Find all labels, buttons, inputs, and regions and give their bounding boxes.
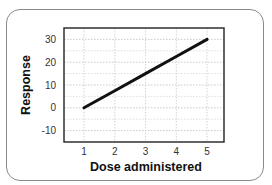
x-tick-label: 4 [174,146,180,157]
y-axis-title: Response [19,55,33,115]
x-tick-label: 2 [112,146,118,157]
y-tick-label: 20 [45,57,57,68]
y-axis-ticks: 3020100-10 [42,34,57,136]
x-axis-ticks: 12345 [81,146,210,157]
x-tick-label: 3 [143,146,149,157]
grid [64,28,224,142]
x-tick-label: 5 [204,146,210,157]
y-tick-label: 10 [45,80,57,91]
line-chart: 3020100-10 12345 Dose administered Respo… [0,0,272,185]
y-tick-label: 0 [50,102,56,113]
x-tick-label: 1 [81,146,87,157]
y-tick-label: -10 [42,125,57,136]
x-axis-title: Dose administered [90,160,202,174]
y-tick-label: 30 [45,34,57,45]
